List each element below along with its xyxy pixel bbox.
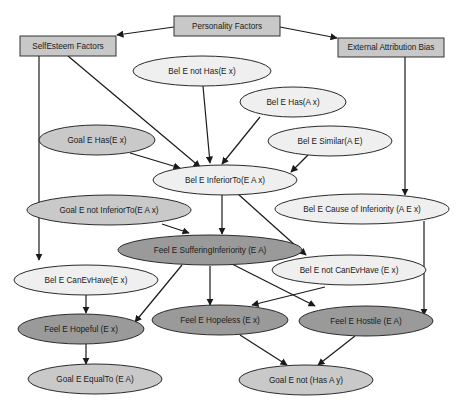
svg-text:Bel E InferiorTo(E A x): Bel E InferiorTo(E A x)	[185, 176, 265, 185]
edge-goalnotinf-to-suffering	[162, 224, 189, 233]
svg-text:Goal E not (Has A y): Goal E not (Has A y)	[269, 376, 343, 385]
node-bel-not-canevhave-ex: Bel E not CanEvHave (E x)	[272, 255, 426, 285]
svg-text:SelfEsteem Factors: SelfEsteem Factors	[32, 42, 103, 51]
svg-text:Bel E Similar(A E): Bel E Similar(A E)	[297, 137, 362, 146]
svg-text:Feel E Hostile (E A): Feel E Hostile (E A)	[330, 317, 402, 326]
node-goal-has-ex: Goal E Has(E x)	[39, 125, 155, 155]
edge-hasA-to-inferiorto	[222, 117, 260, 164]
node-goal-not-has-ay: Goal E not (Has A y)	[239, 365, 373, 395]
edge-hostile-to-goalnothas	[318, 336, 355, 365]
svg-text:Bel E not CanEvHave (E x): Bel E not CanEvHave (E x)	[300, 266, 399, 275]
edge-similar-to-inferiorto	[291, 155, 308, 172]
svg-text:Feel E SufferingInferiority (E: Feel E SufferingInferiority (E A)	[154, 246, 267, 255]
svg-text:External Attribution Bias: External Attribution Bias	[348, 43, 435, 52]
node-bel-cause-of-inferiority: Bel E Cause of Inferiority (A E x)	[275, 194, 449, 224]
node-feel-suffering-inferiority: Feel E SufferingInferiority (E A)	[118, 235, 302, 265]
node-goal-not-inferiorto-eax: Goal E not InferiorTo(E A x)	[27, 195, 191, 225]
svg-text:Bel E Cause of Inferiority (A: Bel E Cause of Inferiority (A E x)	[303, 205, 421, 214]
svg-text:Bel E not Has(E x): Bel E not Has(E x)	[168, 67, 236, 76]
edge-hopeless-to-goalnothas	[240, 335, 287, 365]
edge-personality-to-selfesteem	[117, 27, 174, 35]
node-bel-has-ax: Bel E Has(A x)	[240, 87, 346, 117]
node-feel-hopeless-ex: Feel E Hopeless (E x)	[152, 305, 288, 335]
svg-text:Personality Factors: Personality Factors	[192, 22, 262, 31]
edge-notHas-to-inferiorto	[203, 86, 210, 163]
inference-diagram: Personality Factors SelfEsteem Factors E…	[0, 0, 459, 412]
node-external-attribution-bias: External Attribution Bias	[338, 38, 444, 57]
node-personality-factors: Personality Factors	[174, 16, 280, 36]
node-bel-not-has-ex: Bel E not Has(E x)	[133, 56, 271, 86]
node-feel-hopeful-ex: Feel E Hopeful (E x)	[18, 314, 144, 344]
svg-text:Feel E Hopeless (E x): Feel E Hopeless (E x)	[180, 316, 260, 325]
svg-text:Goal E not InferiorTo(E A x): Goal E not InferiorTo(E A x)	[59, 206, 158, 215]
edge-goalHas-to-inferiorto	[130, 153, 180, 168]
node-bel-inferiorto-eax: Bel E InferiorTo(E A x)	[153, 165, 297, 195]
node-selfesteem-factors: SelfEsteem Factors	[20, 36, 116, 56]
svg-text:Bel E CanEvHave(E x): Bel E CanEvHave(E x)	[45, 276, 128, 285]
edge-notcanev-to-hopeless	[252, 287, 325, 305]
svg-text:Goal E Has(E x): Goal E Has(E x)	[67, 136, 126, 145]
node-bel-similar-ae: Bel E Similar(A E)	[268, 126, 392, 156]
edge-personality-to-external	[280, 27, 337, 38]
svg-text:Bel E Has(A x): Bel E Has(A x)	[266, 98, 320, 107]
node-bel-canevhave-ex: Bel E CanEvHave(E x)	[14, 265, 158, 295]
node-feel-hostile-ea: Feel E Hostile (E A)	[299, 306, 433, 336]
node-goal-equalto-ea: Goal E EqualTo (E A)	[28, 364, 162, 394]
svg-text:Feel E Hopeful (E x): Feel E Hopeful (E x)	[44, 325, 118, 334]
svg-text:Goal E EqualTo (E A): Goal E EqualTo (E A)	[56, 375, 134, 384]
